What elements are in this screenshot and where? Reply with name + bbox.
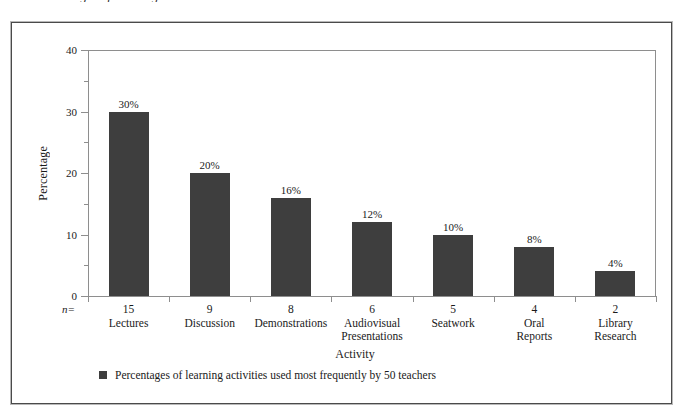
y-axis-title: Percentage [36,146,54,201]
x-tick [169,296,170,302]
bar-value-label: 12% [362,208,382,220]
x-axis-line [88,296,656,297]
y-tick-minor [84,204,88,205]
bar: 12% [352,222,392,296]
x-tick [656,296,657,302]
category-name-line: Presentations [320,330,424,343]
x-tick [413,296,414,302]
x-tick [250,296,251,302]
x-tick [331,296,332,302]
category-name-line: Research [563,330,667,343]
n-equals-marker: n= [62,303,75,315]
bar-value-label: 16% [281,184,301,196]
y-tick-minor [84,265,88,266]
y-tick-label: 10 [66,229,77,241]
category-n-value: 2 [563,303,667,316]
bar-value-label: 4% [608,257,623,269]
bar: 16% [271,198,311,296]
x-tick [494,296,495,302]
chart-screenshot: Percentages of learning activities Perce… [0,0,682,417]
x-category-label: 2LibraryResearch [563,303,667,343]
bar: 10% [433,235,473,297]
plot-area: 010203040 30%20%16%12%10%8%4% [88,50,656,296]
bar: 30% [109,112,149,297]
x-axis-title-text: Activity [335,347,374,361]
bar: 8% [514,247,554,296]
legend-swatch [99,371,107,379]
bar-value-label: 10% [443,221,463,233]
y-tick-major [81,50,88,51]
y-tick-label: 40 [66,44,77,56]
bar-value-label: 20% [200,159,220,171]
x-tick [88,296,89,302]
bar-value-label: 8% [527,233,542,245]
x-axis-title: Activity [0,347,682,362]
y-tick-label: 20 [66,167,77,179]
bar-value-label: 30% [118,98,138,110]
bar: 20% [190,173,230,296]
y-axis-line [88,50,89,296]
cropped-caption-sliver: Percentages of learning activities [34,0,334,2]
category-name-line: Library [563,317,667,330]
y-tick-major [81,235,88,236]
y-tick-major [81,173,88,174]
bar: 4% [595,271,635,296]
y-tick-major [81,296,88,297]
y-tick-minor [84,81,88,82]
legend: Percentages of learning activities used … [99,369,436,381]
x-tick [575,296,576,302]
plot-right-border [655,50,656,297]
y-tick-label: 0 [72,290,78,302]
y-tick-label: 30 [66,106,77,118]
legend-label: Percentages of learning activities used … [115,369,436,381]
plot-top-border [88,50,656,51]
y-tick-minor [84,142,88,143]
y-tick-major [81,112,88,113]
